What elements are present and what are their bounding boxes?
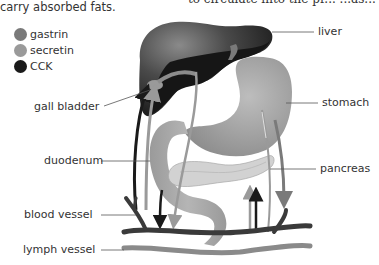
label-liver: liver	[318, 25, 342, 38]
digestive-organs-illustration	[0, 0, 379, 265]
label-stomach: stomach	[322, 96, 369, 109]
label-duodenum: duodenum	[44, 154, 103, 167]
lymph-vessel-shape	[124, 245, 310, 252]
label-pancreas: pancreas	[320, 162, 370, 175]
label-lymph-vessel: lymph vessel	[23, 243, 95, 256]
label-blood-vessel: blood vessel	[24, 208, 93, 221]
label-gall-bladder: gall bladder	[34, 100, 99, 113]
